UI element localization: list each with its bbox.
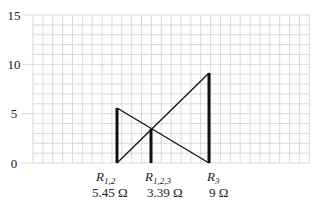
grid	[22, 15, 310, 163]
diagonal-r12-top-to-r3-base	[117, 108, 209, 163]
y-tick-10: 10	[8, 57, 21, 72]
y-tick-0: 0	[11, 156, 18, 171]
value-r123: 3.39 Ω	[147, 185, 183, 200]
label-r3: R3	[206, 169, 220, 186]
value-r12: 5.45 Ω	[92, 185, 128, 200]
y-tick-5: 5	[11, 106, 18, 121]
y-tick-15: 15	[8, 8, 21, 23]
y-axis: 15 10 5 0	[8, 8, 21, 171]
label-r123: R1,2,3	[144, 169, 171, 186]
resistor-labels: R1,2 5.45 Ω R1,2,3 3.39 Ω R3 9 Ω	[92, 169, 228, 200]
construction-lines	[117, 73, 209, 163]
resistance-nomogram: 15 10 5 0 R1,2 5.45 Ω R1,2,3 3.39 Ω R3 9…	[0, 0, 322, 207]
label-r12: R1,2	[95, 169, 116, 186]
diagonal-r12-base-to-r3-top	[117, 73, 209, 163]
value-r3: 9 Ω	[209, 185, 228, 200]
